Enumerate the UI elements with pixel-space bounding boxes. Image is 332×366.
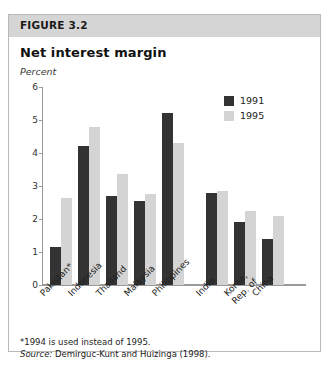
y-axis-tick-label: 2 (20, 214, 38, 224)
bar-1991-indonesia (78, 146, 89, 285)
bar-1991-philippines (162, 113, 173, 285)
legend-item-1991: 1991 (224, 95, 264, 106)
y-axis-tick-mark (39, 120, 42, 121)
x-axis-labels: Pakistan*IndonesiaThailandMalaysiaPhilip… (20, 287, 310, 337)
y-axis-tick-mark (39, 186, 42, 187)
bar-group (133, 87, 157, 285)
y-axis-tick-mark (39, 219, 42, 220)
y-axis-unit-label: Percent (20, 66, 56, 77)
source-label: Source: (20, 349, 52, 359)
bar-group (105, 87, 129, 285)
legend-swatch-1991-icon (224, 96, 234, 106)
bars-area (43, 87, 306, 285)
source-text: Demirguc-Kunt and Huizinga (1998). (52, 349, 210, 359)
bar-group (161, 87, 185, 285)
legend-item-1995: 1995 (224, 110, 264, 121)
y-axis-tick-label: 1 (20, 247, 38, 257)
y-axis-tick-mark (39, 252, 42, 253)
y-axis-tick-mark (39, 153, 42, 154)
figure-container: FIGURE 3.2 Net interest margin Percent 0… (8, 14, 321, 352)
legend-label-1991: 1991 (240, 95, 264, 106)
plot-area: 0123456 1991 1995 (20, 81, 310, 287)
bar-group (49, 87, 73, 285)
figure-source: Source: Demirguc-Kunt and Huizinga (1998… (20, 349, 211, 361)
bar-1995-india (217, 191, 228, 285)
y-axis-tick-label: 6 (20, 82, 38, 92)
figure-label: FIGURE 3.2 (20, 19, 88, 31)
bar-group (261, 87, 285, 285)
chart-legend: 1991 1995 (224, 95, 264, 125)
legend-swatch-1995-icon (224, 111, 234, 121)
y-axis-tick-mark (39, 87, 42, 88)
footnote-asterisk: *1994 is used instead of 1995. (20, 337, 211, 349)
y-axis-tick-label: 4 (20, 148, 38, 158)
bar-1991-india (206, 193, 217, 285)
figure-footnotes: *1994 is used instead of 1995. Source: D… (20, 337, 211, 360)
bar-1995-china (273, 216, 284, 285)
legend-label-1995: 1995 (240, 110, 264, 121)
chart-title: Net interest margin (20, 45, 167, 60)
y-axis-tick-label: 5 (20, 115, 38, 125)
y-axis-tick-label: 3 (20, 181, 38, 191)
bar-group (77, 87, 101, 285)
